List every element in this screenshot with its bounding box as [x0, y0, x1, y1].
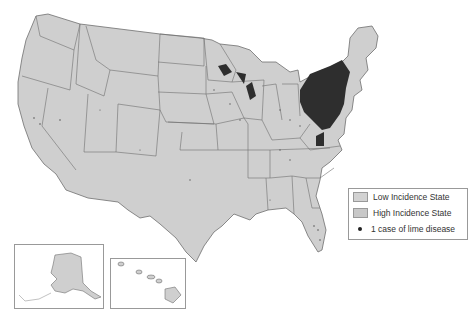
legend-item-low: Low Incidence State [349, 189, 467, 205]
alaska-inset [14, 244, 104, 309]
case-dot-icon [358, 227, 362, 231]
legend: Low Incidence State High Incidence State… [348, 188, 468, 240]
legend-item-high: High Incidence State [349, 205, 467, 221]
legend-label: High Incidence State [373, 208, 451, 218]
alaska-shape [15, 245, 103, 308]
low-incidence-swatch [353, 192, 368, 202]
legend-item-case: 1 case of lime disease [349, 221, 467, 237]
legend-label: 1 case of lime disease [371, 224, 455, 234]
hawaii-inset [110, 258, 186, 309]
hawaii-shape [111, 259, 185, 308]
legend-label: Low Incidence State [373, 192, 450, 202]
high-incidence-swatch [353, 208, 368, 218]
